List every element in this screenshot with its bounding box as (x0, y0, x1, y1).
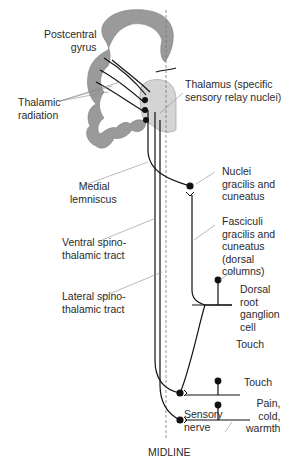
label-pain-cold-warmth: Pain, cold, warmth (246, 397, 280, 435)
label-medial-lemniscus: Medial lemniscus (70, 180, 117, 205)
label-sensory-nerve: Sensory nerve (184, 408, 223, 433)
label-lateral-spinothalamic: Lateral spino- thalamic tract (62, 290, 126, 315)
label-touch-1: Touch (236, 338, 264, 351)
label-touch-2: Touch (244, 376, 272, 389)
label-thalamus: Thalamus (specific sensory relay nuclei) (185, 78, 281, 103)
label-dorsal-root-ganglion: Dorsal root ganglion cell (240, 283, 280, 333)
label-ventral-spinothalamic: Ventral spino- thalamic tract (62, 236, 126, 261)
label-thalamic-radiation: Thalamic radiation (18, 96, 61, 121)
label-fasciculi: Fasciculi gracilis and cuneatus (dorsal … (222, 215, 275, 278)
label-midline: MIDLINE (148, 446, 191, 459)
label-nuclei-gracilis: Nuclei gracilis and cuneatus (222, 165, 275, 203)
label-postcentral-gyrus: Postcentral gyrus (44, 28, 97, 53)
